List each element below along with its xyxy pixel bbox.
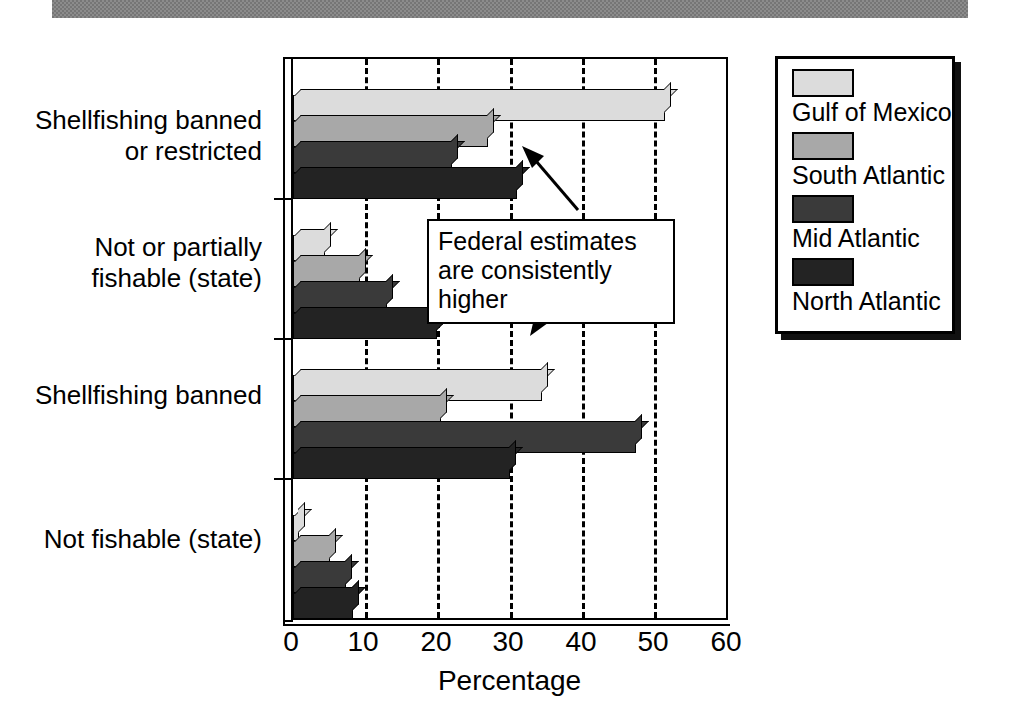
- legend-label: North Atlantic: [792, 286, 952, 317]
- legend-item-south-atlantic[interactable]: South Atlantic: [792, 132, 952, 191]
- bar-3-0: [293, 173, 517, 199]
- category-label-line: Shellfishing banned: [0, 380, 262, 411]
- bar-side-face: [664, 82, 671, 113]
- bar-side-face: [359, 248, 366, 279]
- bar-side-face: [324, 222, 331, 253]
- bar-side-face: [509, 440, 516, 471]
- bar-top-face: [294, 89, 678, 96]
- bar-top-face: [294, 141, 465, 148]
- legend-swatch-icon: [792, 69, 854, 97]
- x-tick-label-30: 30: [473, 626, 543, 658]
- x-axis-title: Percentage: [291, 665, 728, 697]
- bar-top-face: [294, 395, 454, 402]
- bar-side-face: [541, 362, 548, 393]
- x-tick-label-40: 40: [546, 626, 616, 658]
- bar-side-face: [440, 388, 447, 419]
- legend-label: Gulf of Mexico: [792, 97, 952, 128]
- chart-page: Federal estimates are consistently highe…: [0, 0, 1010, 721]
- category-label-not-fishable: Not fishable (state): [0, 524, 262, 555]
- bar-top-face: [294, 447, 523, 454]
- category-label-line: fishable (state): [0, 263, 262, 294]
- legend-item-gulf-of-mexico[interactable]: Gulf of Mexico: [792, 69, 952, 128]
- x-tick-label-20: 20: [401, 626, 471, 658]
- bar-side-face: [386, 274, 393, 305]
- bar-top-face: [294, 421, 649, 428]
- category-label-line: Not or partially: [0, 232, 262, 263]
- bar-3-2: [293, 453, 510, 479]
- bar-top-face: [294, 115, 501, 122]
- legend-swatch-icon: [792, 132, 854, 160]
- legend-swatch-icon: [792, 258, 854, 286]
- legend-label: Mid Atlantic: [792, 223, 952, 254]
- legend-item-north-atlantic[interactable]: North Atlantic: [792, 258, 952, 317]
- x-tick-label-60: 60: [691, 626, 761, 658]
- bar-top-face: [294, 281, 400, 288]
- bar-side-face: [352, 580, 359, 611]
- legend-item-mid-atlantic[interactable]: Mid Atlantic: [792, 195, 952, 254]
- bar-side-face: [487, 108, 494, 139]
- bar-top-face: [294, 229, 338, 236]
- annotation-callout: Federal estimates are consistently highe…: [427, 219, 675, 324]
- legend-label: South Atlantic: [792, 160, 952, 191]
- category-label-line: Shellfishing banned: [0, 105, 262, 136]
- bar-top-face: [294, 167, 530, 174]
- bar-side-face: [329, 528, 336, 559]
- x-tick-label-10: 10: [328, 626, 398, 658]
- legend-swatch-icon: [792, 195, 854, 223]
- category-label-shellfishing-banned-or-restricted: Shellfishing banned or restricted: [0, 105, 262, 167]
- bar-side-face: [345, 554, 352, 585]
- bar-side-face: [298, 502, 305, 533]
- category-label-line: Not fishable (state): [0, 524, 262, 555]
- bar-side-face: [635, 414, 642, 445]
- category-label-not-or-partially-fishable: Not or partially fishable (state): [0, 232, 262, 294]
- bar-top-face: [294, 369, 555, 376]
- x-tick-label-50: 50: [618, 626, 688, 658]
- category-label-line: or restricted: [0, 136, 262, 167]
- x-tick-label-0: 0: [256, 626, 326, 658]
- legend: Gulf of Mexico South Atlantic Mid Atlant…: [775, 56, 955, 334]
- bar-side-face: [451, 134, 458, 165]
- category-label-shellfishing-banned: Shellfishing banned: [0, 380, 262, 411]
- bar-3-3: [293, 593, 353, 619]
- scan-banner: [52, 0, 968, 18]
- annotation-line-2: are consistently higher: [438, 256, 664, 314]
- annotation-line-1: Federal estimates: [438, 227, 664, 256]
- bar-3-1: [293, 313, 437, 339]
